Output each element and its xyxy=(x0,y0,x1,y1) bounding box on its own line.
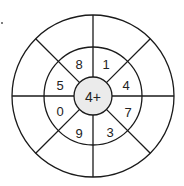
segment-left-upper: 5 xyxy=(56,78,63,93)
segment-left-lower: 0 xyxy=(56,104,63,119)
wheel-diagram: 4+ 8 1 4 7 3 9 0 5 xyxy=(0,0,184,186)
segment-right-lower: 7 xyxy=(124,105,131,120)
segment-top-right: 1 xyxy=(102,57,109,72)
divider-top-right xyxy=(106,39,150,83)
segment-right-upper: 4 xyxy=(122,78,129,93)
segment-bottom-right: 3 xyxy=(106,125,113,140)
center-label: 4+ xyxy=(85,89,101,105)
segment-bottom-left: 9 xyxy=(75,126,82,141)
segment-top-left: 8 xyxy=(75,57,82,72)
divider-top-left xyxy=(36,39,80,83)
